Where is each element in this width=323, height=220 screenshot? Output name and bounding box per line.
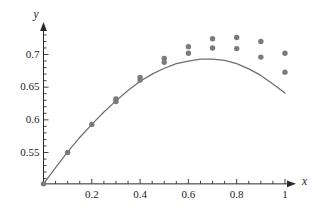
y-tick-label: 0.55: [6, 146, 40, 158]
data-point: [282, 50, 287, 55]
data-point: [258, 54, 263, 59]
x-tick-label: 1: [269, 188, 301, 200]
data-point: [65, 150, 70, 155]
y-tick-label: 0.6: [6, 113, 40, 125]
data-point: [210, 45, 215, 50]
data-point: [258, 39, 263, 44]
x-tick-label: 0.4: [124, 188, 156, 200]
data-point: [113, 99, 118, 104]
x-tick-label: 0.8: [221, 188, 253, 200]
data-point: [41, 181, 46, 186]
y-tick-label: 0.7: [6, 48, 40, 60]
x-tick-label: 0.2: [76, 188, 108, 200]
data-point: [210, 36, 215, 41]
scatter-plot-figure: 0.20.40.60.810.550.60.650.7 y x: [0, 0, 323, 220]
x-tick-label: 0.6: [172, 188, 204, 200]
fitted-curve-layer: [44, 59, 286, 184]
axes-layer: [40, 22, 296, 187]
data-point: [89, 122, 94, 127]
data-point: [234, 46, 239, 51]
data-point: [234, 35, 239, 40]
data-point: [162, 60, 167, 65]
y-axis-title: y: [34, 8, 39, 20]
data-point: [282, 69, 287, 74]
y-tick-label: 0.65: [6, 80, 40, 92]
data-point: [186, 44, 191, 49]
data-point: [186, 50, 191, 55]
x-axis-title: x: [302, 175, 307, 187]
data-points-layer: [41, 35, 288, 187]
data-point: [137, 77, 142, 82]
